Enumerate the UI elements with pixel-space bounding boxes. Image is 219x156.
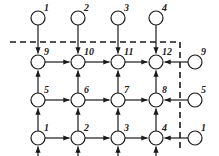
top-source-node-3[interactable] (111, 11, 125, 25)
grid-row-bottom-label-2: 2 (84, 123, 89, 133)
grid-row-bottom-node-2[interactable] (71, 131, 85, 145)
top-source-node-1[interactable] (31, 11, 45, 25)
grid-row-top-label-10: 10 (84, 47, 94, 57)
top-source-label-1: 1 (44, 3, 49, 13)
grid-row-bottom-node-3[interactable] (111, 131, 125, 145)
grid-row-bottom-node-4[interactable] (149, 131, 163, 145)
right-source-label-5: 5 (201, 85, 206, 95)
grid-row-middle-label-8: 8 (162, 85, 167, 95)
grid-row-middle-node-7[interactable] (111, 93, 125, 107)
grid-row-middle-node-6[interactable] (71, 93, 85, 107)
right-source-node-1[interactable] (188, 131, 202, 145)
grid-row-middle-node-8[interactable] (149, 93, 163, 107)
right-source-node-5[interactable] (188, 93, 202, 107)
grid-row-top-node-10[interactable] (71, 55, 85, 69)
right-source-node-9[interactable] (188, 55, 202, 69)
grid-row-top-label-12: 12 (162, 47, 172, 57)
grid-row-top-label-9: 9 (44, 47, 49, 57)
grid-row-top-node-12[interactable] (149, 55, 163, 69)
top-source-label-2: 2 (84, 3, 89, 13)
grid-row-bottom-node-1[interactable] (31, 131, 45, 145)
network-diagram: 1234910111256781234951 (0, 0, 219, 156)
grid-row-top-node-9[interactable] (31, 55, 45, 69)
top-source-label-4: 4 (162, 3, 167, 13)
node-layer (31, 11, 202, 145)
grid-row-middle-label-5: 5 (44, 85, 49, 95)
right-source-label-9: 9 (201, 47, 206, 57)
right-source-label-1: 1 (201, 123, 206, 133)
grid-row-middle-label-7: 7 (124, 85, 129, 95)
diagram-canvas (0, 0, 219, 156)
top-source-node-2[interactable] (71, 11, 85, 25)
grid-row-middle-label-6: 6 (84, 85, 89, 95)
grid-row-middle-node-5[interactable] (31, 93, 45, 107)
grid-row-bottom-label-1: 1 (44, 123, 49, 133)
grid-row-top-label-11: 11 (124, 47, 133, 57)
top-source-label-3: 3 (124, 3, 129, 13)
grid-row-bottom-label-4: 4 (162, 123, 167, 133)
grid-row-top-node-11[interactable] (111, 55, 125, 69)
grid-row-bottom-label-3: 3 (124, 123, 129, 133)
top-source-node-4[interactable] (149, 11, 163, 25)
